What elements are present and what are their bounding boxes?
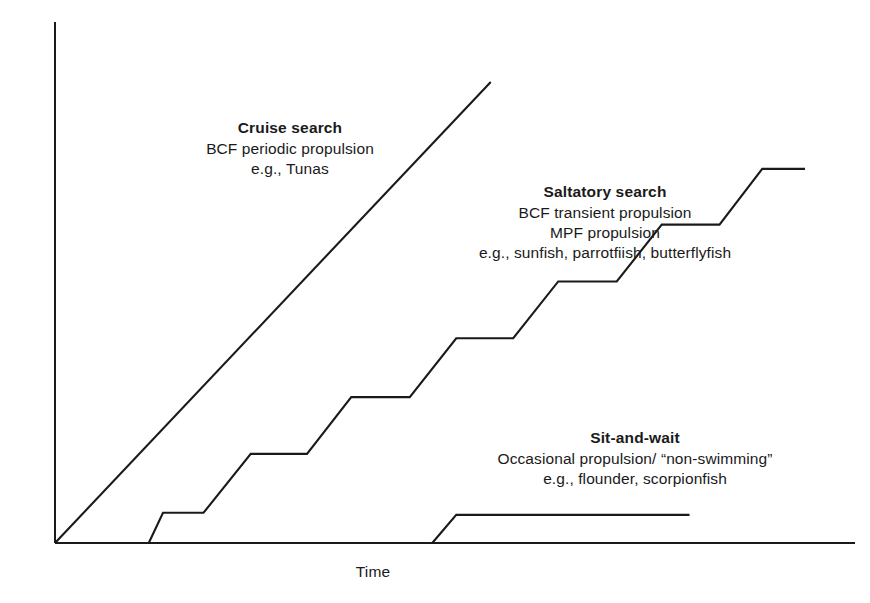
annotation-sit-and-wait: Sit-and-wait Occasional propulsion/ “non…: [470, 428, 800, 489]
y-axis-title-container: Distance: [14, 195, 40, 375]
chart-figure: Distance Time Cruise search BCF periodic…: [0, 0, 870, 603]
annotation-saltatory-search-title: Saltatory search: [425, 182, 785, 202]
annotation-saltatory-search-line3: MPF propulsion: [425, 223, 785, 243]
annotation-sit-and-wait-line3: e.g., flounder, scorpionfish: [470, 469, 800, 489]
chart-plot-area: [0, 0, 870, 603]
annotation-sit-and-wait-line2: Occasional propulsion/ “non-swimming”: [470, 449, 800, 469]
series-line-sit-and-wait: [432, 515, 689, 543]
annotation-saltatory-search-line2: BCF transient propulsion: [425, 203, 785, 223]
annotation-cruise-search-title: Cruise search: [140, 118, 440, 138]
annotation-cruise-search-line2: BCF periodic propulsion: [140, 139, 440, 159]
annotation-cruise-search: Cruise search BCF periodic propulsion e.…: [140, 118, 440, 179]
annotation-cruise-search-line3: e.g., Tunas: [140, 159, 440, 179]
annotation-saltatory-search: Saltatory search BCF transient propulsio…: [425, 182, 785, 264]
y-axis-title: Distance: [0, 272, 117, 290]
annotation-sit-and-wait-title: Sit-and-wait: [470, 428, 800, 448]
x-axis-title-container: Time: [293, 563, 453, 581]
annotation-saltatory-search-line4: e.g., sunfish, parrotfiish, butterflyfis…: [425, 243, 785, 263]
x-axis-title: Time: [293, 563, 453, 581]
